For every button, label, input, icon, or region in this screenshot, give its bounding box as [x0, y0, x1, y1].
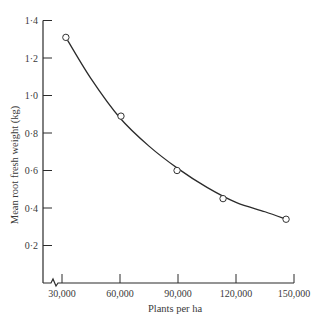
x-tick-label: 120,000 [220, 288, 253, 299]
x-tick-label: 30,000 [48, 288, 76, 299]
data-point-marker [174, 167, 180, 173]
chart: 0·20·40·60·81·01·21·4 30,00060,00090,000… [0, 0, 328, 325]
y-tick-label: 1·0 [25, 90, 38, 101]
data-point-marker [63, 34, 69, 40]
y-tick-label: 0·2 [25, 240, 38, 251]
x-tick-label: 60,000 [106, 288, 134, 299]
axes [43, 21, 294, 287]
data-points [63, 34, 290, 222]
data-point-marker [118, 113, 124, 119]
x-tick-label: 150,000 [278, 288, 311, 299]
y-tick-label: 0·6 [25, 165, 38, 176]
y-axis-label: Mean root fresh weight (kg) [9, 105, 21, 224]
y-axis-ticks: 0·20·40·60·81·01·21·4 [25, 15, 52, 251]
fitted-curve [66, 37, 286, 219]
data-point-marker [283, 216, 289, 222]
x-axis-ticks: 30,00060,00090,000120,000150,000 [48, 274, 310, 299]
data-point-marker [220, 195, 226, 201]
x-axis-label: Plants per ha [148, 303, 203, 314]
y-tick-label: 1·2 [25, 53, 38, 64]
y-tick-label: 1·4 [25, 15, 38, 26]
y-tick-label: 0·4 [25, 203, 38, 214]
x-tick-label: 90,000 [164, 288, 192, 299]
x-axis-line [43, 279, 294, 286]
y-tick-label: 0·8 [25, 128, 38, 139]
